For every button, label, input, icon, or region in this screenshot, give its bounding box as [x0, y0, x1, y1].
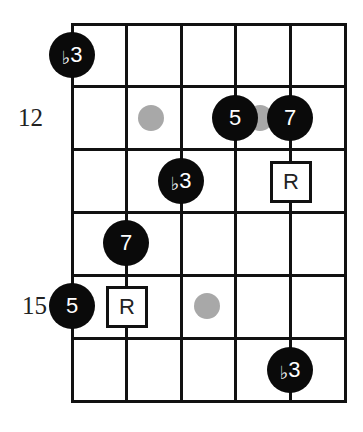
note-7: 7 — [267, 95, 313, 141]
note-degree: 5 — [66, 293, 78, 319]
fret-line-6 — [71, 400, 347, 403]
flat-symbol: ♭ — [280, 362, 289, 383]
fret-line-2 — [71, 148, 347, 151]
note-degree: 3 — [179, 168, 191, 194]
fret-line-5 — [71, 337, 347, 340]
note-5: 5 — [212, 95, 258, 141]
note-degree: 3 — [70, 42, 82, 68]
note-degree: 7 — [284, 105, 296, 131]
note-degree: 3 — [288, 357, 300, 383]
ghost-dot — [194, 293, 220, 319]
note-5: 5 — [49, 283, 95, 329]
note-flat3: ♭3 — [267, 347, 313, 393]
fret-line-4 — [71, 274, 347, 277]
fret-label-12: 12 — [18, 105, 43, 130]
fretboard-diagram: 12 15 ♭3 5 7 ♭3 7 5 ♭3 — [0, 0, 363, 432]
note-degree: 5 — [229, 105, 241, 131]
flat-symbol: ♭ — [171, 173, 180, 194]
note-degree: 7 — [120, 230, 132, 256]
note-7: 7 — [103, 220, 149, 266]
ghost-dot — [138, 105, 164, 131]
root-note: R — [106, 286, 148, 328]
fret-line-0 — [71, 23, 347, 26]
fret-line-3 — [71, 211, 347, 214]
note-flat3: ♭3 — [158, 158, 204, 204]
fret-line-1 — [71, 85, 347, 88]
note-flat3: ♭3 — [49, 32, 95, 78]
fret-label-15: 15 — [22, 293, 47, 318]
root-note: R — [270, 161, 312, 203]
flat-symbol: ♭ — [62, 47, 71, 68]
